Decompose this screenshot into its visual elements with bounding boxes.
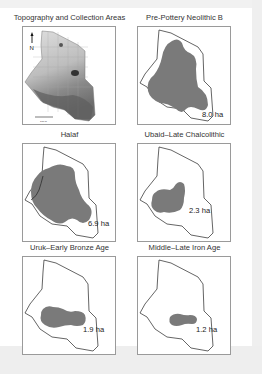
panel-title-ppnb: Pre-Pottery Neolithic B xyxy=(127,13,242,22)
occupation-area xyxy=(31,164,92,223)
occupation-area xyxy=(169,314,197,326)
panel-iron: 1.2 ha xyxy=(137,256,231,355)
panel-title-uruk: Uruk–Early Bronze Age xyxy=(12,243,127,252)
topography-map: N 100 m xyxy=(23,27,117,126)
panel-halaf: 6.9 ha xyxy=(22,143,116,242)
occupation-area xyxy=(148,39,208,112)
area-label-ubaid: 2.3 ha xyxy=(189,206,210,215)
scrollbar[interactable] xyxy=(252,0,262,374)
occupation-area xyxy=(151,182,185,213)
area-label-iron: 1.2 ha xyxy=(196,325,217,334)
area-label-halaf: 6.9 ha xyxy=(88,219,109,228)
occupation-area xyxy=(41,306,86,327)
panel-uruk: 1.9 ha xyxy=(22,256,116,355)
area-label-ppnb: 8.0 ha xyxy=(202,110,223,119)
svg-text:N: N xyxy=(30,45,34,51)
panel-title-iron: Middle–Late Iron Age xyxy=(127,243,242,252)
svg-text:100 m: 100 m xyxy=(40,120,47,123)
area-label-uruk: 1.9 ha xyxy=(83,325,104,334)
panel-title-topography: Topography and Collection Areas xyxy=(12,13,127,22)
panel-ppnb: 8.0 ha xyxy=(137,26,231,125)
panel-title-ubaid: Ubaid–Late Chalcolithic xyxy=(127,130,242,139)
panel-topography: N 100 m xyxy=(22,26,116,125)
site-outline xyxy=(140,260,213,351)
panel-ubaid: 2.3 ha xyxy=(137,143,231,242)
site-outline xyxy=(25,260,98,351)
panel-title-halaf: Halaf xyxy=(12,130,127,139)
